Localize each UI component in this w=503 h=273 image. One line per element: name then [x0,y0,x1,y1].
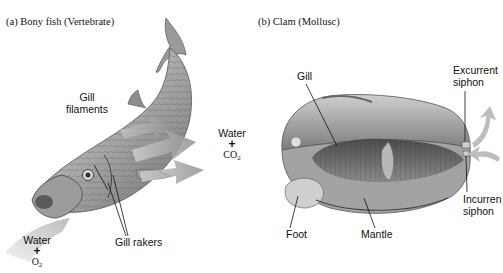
illustration-canvas [0,0,503,273]
gill-rakers-label: Gill rakers [115,236,162,248]
excurrent-line1: Excurrent [453,64,498,76]
gill-filaments-line2: filaments [66,103,108,115]
incurrent-line2: siphon [463,205,494,217]
water-co2-label: Water + CO2 [215,128,249,164]
fish-illustration [32,18,192,218]
plus-sign: + [215,139,249,149]
incurrent-line1: Incurren [463,193,502,205]
plus-sign: + [20,246,54,256]
excurrent-line2: siphon [453,76,484,88]
foot-label: Foot [286,228,307,240]
mantle-label: Mantle [361,228,393,240]
figure: (a) Bony fish (Vertebrate) Gill filament… [0,0,503,273]
o2-formula: O2 [20,256,54,271]
panel-b-caption: (b) Clam (Mollusc) [258,16,340,27]
incurrent-siphon-label: Incurren siphon [463,193,502,217]
excurrent-siphon-label: Excurrent siphon [453,64,498,88]
panel-a-caption: (a) Bony fish (Vertebrate) [6,16,114,27]
gill-filaments-label: Gill filaments [66,91,108,115]
clam-illustration [282,95,471,214]
co2-formula: CO2 [215,149,249,164]
clam-flow-arrows [468,106,500,162]
gill-filaments-line1: Gill [79,91,94,103]
water-o2-label: Water + O2 [20,235,54,271]
gill-label: Gill [297,70,312,82]
